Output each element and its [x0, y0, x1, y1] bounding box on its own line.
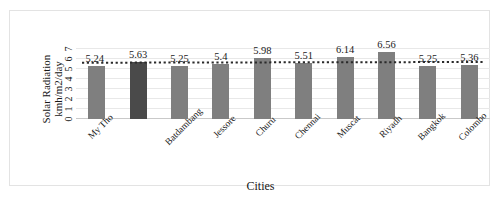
x-tick-slot: Bangkok	[407, 121, 448, 179]
x-tick-slot: Riyadh	[366, 121, 407, 179]
bar[interactable]	[171, 66, 188, 119]
bar-slot: 5.36	[449, 48, 490, 119]
bar-slot: 5.51	[283, 48, 324, 119]
x-tick-slot: Churu	[242, 121, 283, 179]
bar[interactable]	[419, 66, 436, 119]
x-tick-slot: Muscat	[324, 121, 365, 179]
bar-value-label: 6.56	[377, 39, 395, 50]
bar-slot: 5.98	[242, 48, 283, 119]
bar-value-label: 5.4	[214, 51, 227, 62]
bar-slot: 6.14	[324, 48, 365, 119]
bar-value-label: 5.63	[129, 49, 147, 60]
bar-value-label: 5.36	[460, 52, 478, 63]
bar[interactable]	[337, 57, 354, 119]
chart-figure: Solar Radiation kmh/m2/day 7 6 5 4 3 2 1…	[0, 0, 501, 201]
bar[interactable]	[212, 64, 229, 119]
bar[interactable]	[254, 58, 271, 119]
bar[interactable]	[461, 65, 478, 119]
y-axis-title: Solar Radiation kmh/m2/day	[26, 0, 50, 29]
bar[interactable]	[295, 63, 312, 119]
x-tick-slot: Jessore	[200, 121, 241, 179]
bar[interactable]	[378, 52, 395, 119]
bar-slot: 5.63	[117, 48, 158, 119]
bar-value-label: 5.98	[253, 45, 271, 56]
y-axis-title-line1: Solar Radiation	[40, 55, 52, 124]
x-tick-slot	[117, 121, 158, 179]
x-tick-slot: Colombo	[449, 121, 490, 179]
bar-slot: 5.24	[76, 48, 117, 119]
x-tick-slot: My Tho	[76, 121, 117, 179]
y-tick-0: 0	[64, 112, 74, 126]
bar-slot: 6.56	[366, 48, 407, 119]
plot-area: 5.245.635.255.45.985.516.146.565.255.36	[76, 48, 490, 119]
y-axis-tick-labels: 7 6 5 4 3 2 1 0	[62, 48, 76, 120]
bar-value-label: 5.51	[295, 50, 313, 61]
bar-value-label: 5.25	[419, 53, 437, 64]
x-tick-slot: Batdambang	[159, 121, 200, 179]
x-tick-slot: Chennai	[283, 121, 324, 179]
bar[interactable]	[88, 66, 105, 119]
bar-value-label: 6.14	[336, 44, 354, 55]
bar-value-label: 5.24	[86, 53, 104, 64]
bar-value-label: 5.25	[170, 53, 188, 64]
bar-slot: 5.25	[407, 48, 448, 119]
bar-series: 5.245.635.255.45.985.516.146.565.255.36	[76, 48, 490, 119]
x-axis-title: Cities	[10, 179, 501, 194]
x-axis-tick-labels: My ThoBatdambangJessoreChuruChennaiMusca…	[76, 121, 490, 179]
chart-frame: Solar Radiation kmh/m2/day 7 6 5 4 3 2 1…	[9, 10, 490, 186]
bar[interactable]	[130, 62, 147, 119]
bar-slot: 5.4	[200, 48, 241, 119]
